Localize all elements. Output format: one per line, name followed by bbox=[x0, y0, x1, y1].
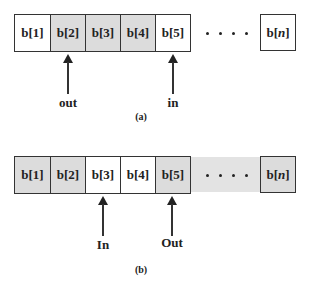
cell-b-n: b[n] bbox=[260, 156, 296, 193]
dot-icon bbox=[232, 32, 235, 35]
cell-label-var: n bbox=[278, 167, 285, 183]
cell-b-5: b[5] bbox=[155, 156, 191, 194]
pointer-in-label: In bbox=[97, 237, 109, 253]
caption-a: (a) bbox=[135, 111, 147, 122]
cell-label: b[2] bbox=[57, 167, 79, 183]
cell-label: b[2] bbox=[57, 25, 79, 41]
dot-icon bbox=[245, 174, 248, 177]
pointer-out-label: out bbox=[59, 95, 77, 111]
dot-icon bbox=[219, 32, 222, 35]
cell-a-4: b[4] bbox=[120, 14, 156, 52]
pointer-out-label: Out bbox=[161, 235, 183, 251]
dot-icon bbox=[232, 174, 235, 177]
cell-label-prefix: b[ bbox=[266, 25, 278, 41]
cell-b-2: b[2] bbox=[50, 156, 86, 194]
cell-label: b[3] bbox=[92, 25, 114, 41]
cell-a-5: b[5] bbox=[155, 14, 191, 52]
caption-b: (b) bbox=[135, 264, 147, 275]
cell-a-n: b[n] bbox=[260, 14, 296, 51]
cell-a-3: b[3] bbox=[85, 14, 121, 52]
dot-icon bbox=[245, 32, 248, 35]
dot-icon bbox=[219, 174, 222, 177]
cell-label-var: n bbox=[278, 25, 285, 41]
cell-label: b[4] bbox=[127, 167, 149, 183]
cell-label: b[5] bbox=[162, 167, 184, 183]
cell-label: b[4] bbox=[127, 25, 149, 41]
ellipsis-dots bbox=[206, 31, 248, 35]
dot-icon bbox=[206, 32, 209, 35]
cell-label: b[3] bbox=[92, 167, 114, 183]
cell-b-4: b[4] bbox=[120, 156, 156, 194]
cell-b-1: b[1] bbox=[14, 156, 51, 194]
ellipsis-dots bbox=[206, 173, 248, 177]
cell-label: b[5] bbox=[162, 25, 184, 41]
cell-a-1: b[1] bbox=[14, 14, 51, 52]
cell-label-prefix: b[ bbox=[266, 167, 278, 183]
pointer-in-label: in bbox=[168, 95, 179, 111]
cell-label-suffix: ] bbox=[285, 25, 289, 41]
cell-b-3: b[3] bbox=[85, 156, 121, 194]
cell-a-2: b[2] bbox=[50, 14, 86, 52]
cell-label: b[1] bbox=[21, 167, 43, 183]
cell-label: b[1] bbox=[21, 25, 43, 41]
dot-icon bbox=[206, 174, 209, 177]
cell-label-suffix: ] bbox=[285, 167, 289, 183]
